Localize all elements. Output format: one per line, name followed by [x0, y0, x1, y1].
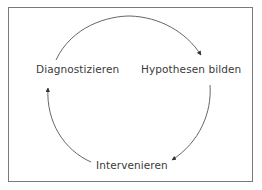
arrow-hypothesen-to-intervenieren [172, 85, 210, 160]
node-hypothesen-bilden: Hypothesen bilden [141, 63, 241, 75]
node-diagnostizieren: Diagnostizieren [36, 63, 119, 75]
arrow-intervenieren-to-diagnostizieren [48, 88, 91, 162]
arrow-diagnostizieren-to-hypothesen [56, 16, 201, 60]
node-intervenieren: Intervenieren [96, 159, 168, 171]
